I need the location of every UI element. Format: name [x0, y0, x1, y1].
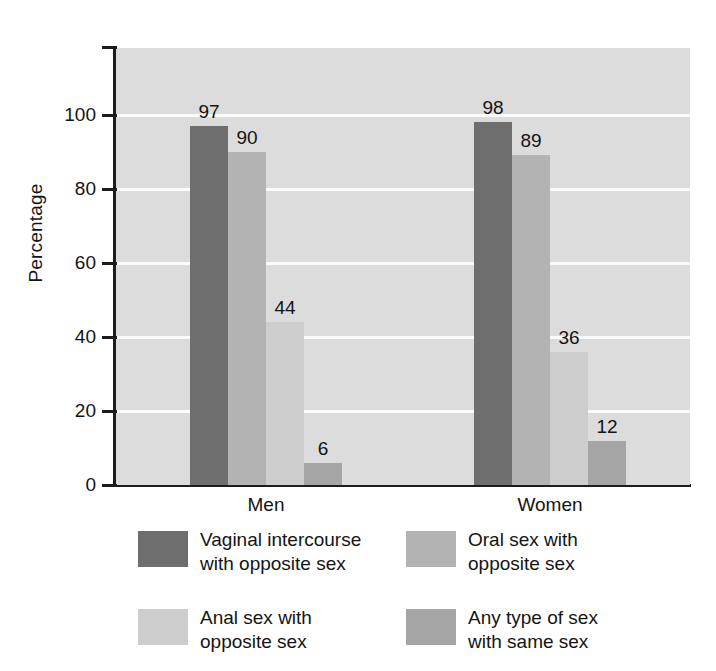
bar: 97 — [190, 126, 228, 485]
bar-value-label: 12 — [596, 416, 617, 438]
bar-value-label: 97 — [198, 101, 219, 123]
legend-item-label: Anal sex with opposite sex — [200, 606, 312, 654]
y-axis-tick-mark — [102, 188, 117, 191]
y-axis-tick-mark — [102, 410, 117, 413]
y-axis-tick-label: 80 — [75, 178, 96, 200]
legend-color-swatch — [138, 609, 188, 645]
bar-value-label: 89 — [520, 130, 541, 152]
y-axis-tick-label: 20 — [75, 400, 96, 422]
x-axis-category-label: Men — [248, 494, 285, 516]
bar-value-label: 6 — [318, 438, 329, 460]
legend-item: Vaginal intercourse with opposite sex — [138, 528, 406, 576]
y-axis-tick-mark — [102, 484, 117, 487]
bar: 90 — [228, 152, 266, 485]
y-axis-tick-label: 0 — [85, 474, 96, 496]
legend-item-label: Any type of sex with same sex — [468, 606, 598, 654]
bar: 36 — [550, 352, 588, 485]
legend-item: Oral sex with opposite sex — [406, 528, 658, 576]
bar-value-label: 98 — [482, 97, 503, 119]
bar: 98 — [474, 122, 512, 485]
bar: 89 — [512, 155, 550, 485]
legend-color-swatch — [406, 531, 456, 567]
bar-chart-figure: Percentage 020406080100979044698893612 M… — [0, 0, 716, 671]
y-axis-tick-mark — [102, 262, 117, 265]
x-axis-category-label: Women — [517, 494, 582, 516]
y-axis-label: Percentage — [25, 153, 47, 313]
plot-area: 020406080100979044698893612 — [116, 48, 690, 485]
bar: 6 — [304, 463, 342, 485]
legend-item-label: Oral sex with opposite sex — [468, 528, 578, 576]
chart-legend: Vaginal intercourse with opposite sexOra… — [138, 528, 658, 654]
legend-item: Any type of sex with same sex — [406, 606, 658, 654]
bar-value-label: 90 — [236, 127, 257, 149]
y-axis-tick-mark — [102, 46, 117, 49]
y-axis-tick-label: 60 — [75, 252, 96, 274]
legend-item-label: Vaginal intercourse with opposite sex — [200, 528, 361, 576]
legend-color-swatch — [406, 609, 456, 645]
bar: 12 — [588, 441, 626, 485]
y-axis-tick-mark — [102, 114, 117, 117]
bar: 44 — [266, 322, 304, 485]
legend-color-swatch — [138, 531, 188, 567]
legend-item: Anal sex with opposite sex — [138, 606, 406, 654]
y-axis-tick-mark — [102, 336, 117, 339]
bar-value-label: 36 — [558, 327, 579, 349]
y-axis-tick-label: 100 — [64, 104, 96, 126]
bar-value-label: 44 — [274, 297, 295, 319]
y-axis-tick-label: 40 — [75, 326, 96, 348]
